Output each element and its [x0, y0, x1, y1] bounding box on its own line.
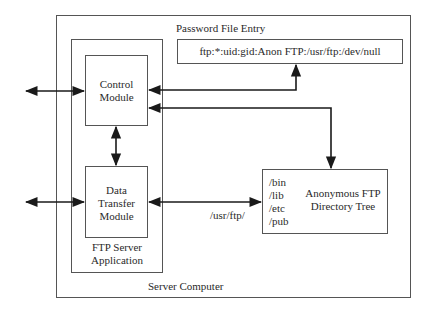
control-password-arrow	[149, 65, 296, 90]
control-tree-arrow	[149, 108, 331, 168]
connector-arrows	[0, 0, 431, 310]
